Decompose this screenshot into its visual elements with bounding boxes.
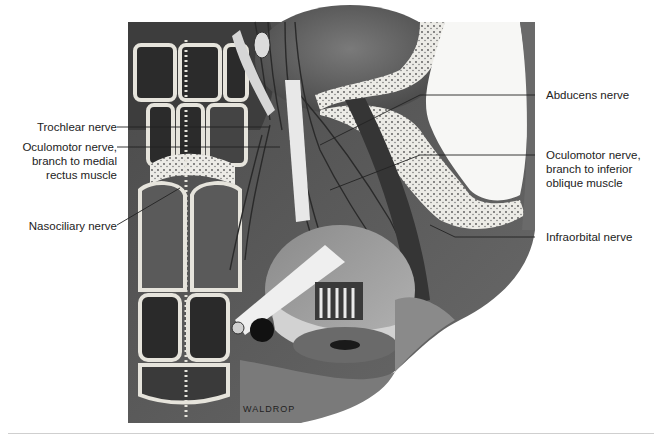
- label-abducens-nerve: Abducens nerve: [546, 88, 629, 102]
- bottom-rule: [8, 433, 654, 434]
- label-oculomotor-medial-rectus: Oculomotor nerve, branch to medial rectu…: [22, 140, 117, 182]
- label-nasociliary-nerve: Nasociliary nerve: [29, 219, 117, 233]
- artist-signature: WALDROP: [243, 404, 295, 414]
- label-trochlear-nerve: Trochlear nerve: [37, 120, 117, 134]
- anatomy-figure: WALDROP Trochlear nerve Oculomotor nerve…: [0, 0, 654, 438]
- label-infraorbital-nerve: Infraorbital nerve: [546, 230, 632, 244]
- label-oculomotor-inferior-oblique: Oculomotor nerve, branch to inferior obl…: [546, 148, 641, 190]
